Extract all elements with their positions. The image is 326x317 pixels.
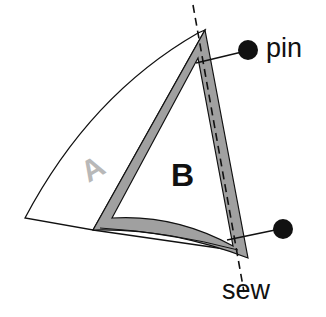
- label-piece-b: B: [171, 157, 194, 194]
- sewing-diagram: A B pin sew: [0, 0, 326, 317]
- pin-top-head-icon: [238, 40, 258, 60]
- label-sew: sew: [222, 275, 270, 306]
- label-pin: pin: [266, 33, 302, 64]
- sew-line: [193, 5, 244, 292]
- pin-bottom-head-icon: [273, 219, 293, 239]
